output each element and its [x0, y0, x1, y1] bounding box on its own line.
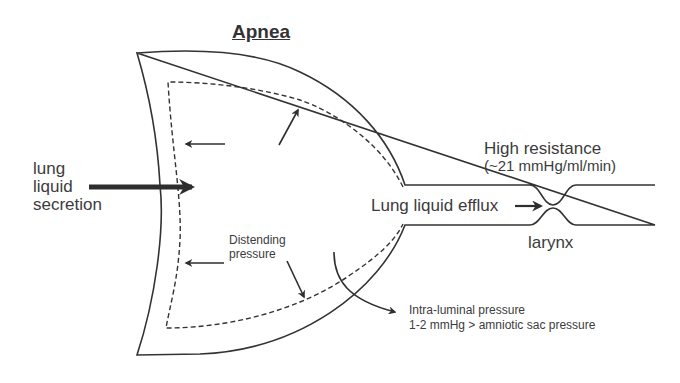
- distending-arrow-upper-right: [279, 110, 298, 145]
- label-high-resistance: High resistance: [484, 140, 601, 158]
- label-pressure: pressure: [229, 248, 276, 261]
- distending-arrow-lower-right: [287, 261, 304, 297]
- label-distending: Distending: [229, 234, 286, 247]
- label-pressure-comparison: 1-2 mmHg > amniotic sac pressure: [409, 319, 595, 332]
- label-secretion: secretion: [33, 196, 102, 214]
- label-lung-liquid-efflux: Lung liquid efflux: [371, 197, 498, 215]
- diagram-title: Apnea: [232, 22, 290, 42]
- label-lung: lung: [33, 160, 65, 178]
- label-larynx: larynx: [528, 234, 573, 252]
- label-liquid: liquid: [33, 178, 73, 196]
- label-intraluminal-pressure: Intra-luminal pressure: [409, 304, 525, 317]
- label-resistance-value: (~21 mmHg/ml/min): [484, 158, 616, 174]
- lung-inner-boundary: [166, 82, 403, 328]
- apnea-diagram: Apnea lung liquid secretion High resista…: [0, 0, 680, 383]
